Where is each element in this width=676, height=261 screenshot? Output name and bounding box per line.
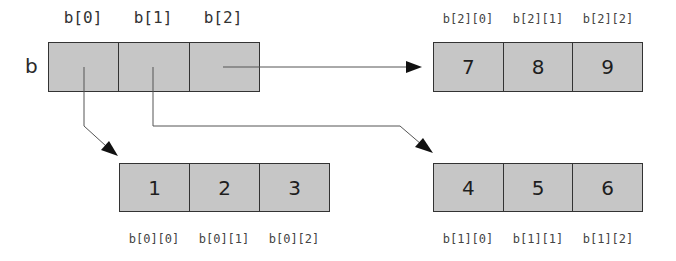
- row-array-b0: 1 2 3: [119, 163, 330, 212]
- ref-cell-2: [189, 43, 259, 91]
- cell-b2-2: 9: [572, 43, 642, 91]
- variable-name-label: b: [25, 56, 38, 76]
- ref-cell-0: [49, 43, 118, 91]
- ref-index-label-1: b[1]: [118, 10, 188, 26]
- cell-b0-2: 3: [259, 164, 329, 211]
- reference-array-b: [48, 42, 260, 92]
- row-array-b2: 7 8 9: [433, 42, 643, 92]
- row-b0-index-labels: b[0][0] b[0][1] b[0][2]: [119, 233, 329, 245]
- row-array-b1: 4 5 6: [433, 163, 643, 212]
- ref-cell-1: [118, 43, 188, 91]
- index-label-b2-2: b[2][2]: [573, 13, 643, 25]
- index-label-b1-2: b[1][2]: [573, 233, 643, 245]
- cell-b1-0: 4: [434, 164, 503, 211]
- pointer-arrows: [0, 0, 676, 261]
- index-label-b0-2: b[0][2]: [259, 233, 329, 245]
- index-label-b1-1: b[1][1]: [503, 233, 573, 245]
- index-label-b0-1: b[0][1]: [189, 233, 259, 245]
- index-label-b1-0: b[1][0]: [433, 233, 503, 245]
- index-label-b0-0: b[0][0]: [119, 233, 189, 245]
- index-label-b2-0: b[2][0]: [433, 13, 503, 25]
- index-label-b2-1: b[2][1]: [503, 13, 573, 25]
- row-b2-index-labels: b[2][0] b[2][1] b[2][2]: [433, 13, 643, 25]
- cell-b0-0: 1: [120, 164, 189, 211]
- cell-b2-1: 8: [503, 43, 573, 91]
- cell-b2-0: 7: [434, 43, 503, 91]
- cell-b0-1: 2: [189, 164, 259, 211]
- ref-index-label-0: b[0]: [48, 10, 118, 26]
- cell-b1-1: 5: [503, 164, 573, 211]
- row-b1-index-labels: b[1][0] b[1][1] b[1][2]: [433, 233, 643, 245]
- cell-b1-2: 6: [572, 164, 642, 211]
- ref-index-label-2: b[2]: [188, 10, 258, 26]
